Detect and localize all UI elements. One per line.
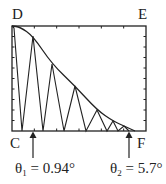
oscillation-curve <box>12 26 129 131</box>
angle-arrows <box>30 132 133 159</box>
theta2-label: θ2 = 5.7° <box>110 161 162 178</box>
label-d: D <box>12 7 23 22</box>
theta1-subscript: 1 <box>22 168 27 178</box>
label-e: E <box>138 7 147 22</box>
theta2-subscript: 2 <box>117 168 122 178</box>
oscillation-plot <box>0 0 166 184</box>
theta1-label: θ1 = 0.94° <box>15 161 75 178</box>
theta2-value: = 5.7° <box>125 160 162 176</box>
theta1-value: = 0.94° <box>30 160 74 176</box>
label-c: C <box>10 136 20 151</box>
envelope-curve <box>12 26 135 131</box>
diffraction-diagram: D E C F θ1 = 0.94° θ2 = 5.7° <box>0 0 166 184</box>
label-f: F <box>137 136 145 151</box>
